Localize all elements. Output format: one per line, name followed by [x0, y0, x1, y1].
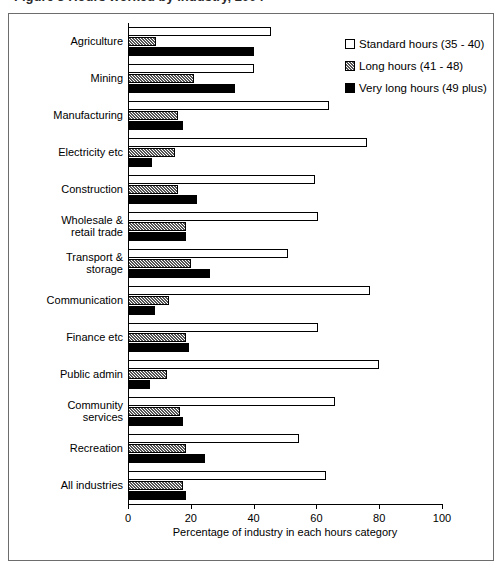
bar-lng: [128, 37, 156, 46]
bar-vlng: [128, 158, 152, 167]
bar-vlng: [128, 232, 186, 241]
bar-std: [128, 138, 367, 147]
legend-label: Long hours (41 - 48): [359, 60, 463, 72]
bar-std: [128, 286, 370, 295]
category-label: Electricity etc: [58, 146, 123, 158]
x-axis-tick: [316, 504, 317, 509]
x-axis-line: [128, 504, 442, 505]
category-label: Communication: [47, 294, 123, 306]
bar-group: [128, 245, 442, 282]
bar-std: [128, 360, 379, 369]
bar-vlng: [128, 47, 254, 56]
bar-lng: [128, 111, 178, 120]
legend-label: Standard hours (35 - 40): [359, 38, 484, 50]
category-label: Manufacturing: [53, 109, 123, 121]
legend-item: Standard hours (35 - 40): [345, 33, 491, 55]
clipped-header-strip: Figure 3 Hours worked by industry, 2004: [0, 0, 504, 12]
bar-vlng: [128, 491, 186, 500]
bar-std: [128, 249, 288, 258]
bar-lng: [128, 481, 183, 490]
bar-vlng: [128, 269, 210, 278]
legend-item: Very long hours (49 plus): [345, 77, 491, 99]
category-label: All industries: [61, 479, 123, 491]
clipped-caption: Figure 3 Hours worked by industry, 2004: [14, 0, 264, 4]
x-axis-tick-label: 80: [359, 512, 399, 524]
bar-lng: [128, 370, 167, 379]
bar-vlng: [128, 84, 235, 93]
bar-vlng: [128, 306, 155, 315]
x-axis-tick: [442, 504, 443, 509]
x-axis-tick: [191, 504, 192, 509]
x-axis-tick-label: 40: [234, 512, 274, 524]
bar-std: [128, 397, 335, 406]
bar-group: [128, 208, 442, 245]
bar-group: [128, 134, 442, 171]
bar-lng: [128, 74, 194, 83]
bar-lng: [128, 296, 169, 305]
bar-lng: [128, 185, 178, 194]
x-axis-tick: [379, 504, 380, 509]
bar-group: [128, 171, 442, 208]
category-label: Recreation: [70, 442, 123, 454]
bar-group: [128, 282, 442, 319]
bar-vlng: [128, 380, 150, 389]
bar-std: [128, 471, 326, 480]
category-label: Construction: [61, 183, 123, 195]
chart-legend: Standard hours (35 - 40)Long hours (41 -…: [345, 33, 491, 99]
chart-frame: AgricultureMiningManufacturingElectricit…: [8, 13, 494, 561]
category-label: Community services: [67, 399, 123, 423]
category-axis-labels: AgricultureMiningManufacturingElectricit…: [9, 23, 123, 504]
bar-std: [128, 212, 318, 221]
x-axis-tick-label: 60: [296, 512, 336, 524]
bar-std: [128, 175, 315, 184]
bar-std: [128, 323, 318, 332]
x-axis-tick-label: 100: [422, 512, 462, 524]
x-axis-tick: [128, 504, 129, 509]
category-label: Finance etc: [66, 331, 123, 343]
x-axis-tick-label: 20: [171, 512, 211, 524]
bar-lng: [128, 148, 175, 157]
bar-lng: [128, 407, 180, 416]
hatched-square-icon: [345, 61, 355, 71]
bar-group: [128, 97, 442, 134]
bar-lng: [128, 333, 186, 342]
bar-std: [128, 64, 254, 73]
bar-vlng: [128, 195, 197, 204]
category-label: Public admin: [60, 368, 123, 380]
bar-vlng: [128, 121, 183, 130]
category-label: Transport & storage: [66, 251, 123, 275]
bar-std: [128, 27, 271, 36]
category-label: Wholesale & retail trade: [61, 214, 123, 238]
x-axis-tick: [254, 504, 255, 509]
category-label: Agriculture: [70, 35, 123, 47]
bar-vlng: [128, 454, 205, 463]
bar-vlng: [128, 417, 183, 426]
bar-group: [128, 356, 442, 393]
legend-label: Very long hours (49 plus): [359, 82, 487, 94]
bar-group: [128, 393, 442, 430]
bar-vlng: [128, 343, 189, 352]
bar-lng: [128, 222, 186, 231]
legend-item: Long hours (41 - 48): [345, 55, 491, 77]
white-square-icon: [345, 39, 355, 49]
bar-lng: [128, 259, 191, 268]
bar-group: [128, 319, 442, 356]
bar-group: [128, 430, 442, 467]
x-axis-title: Percentage of industry in each hours cat…: [128, 526, 442, 538]
x-axis-tick-label: 0: [108, 512, 148, 524]
chart-screenshot: Figure 3 Hours worked by industry, 2004 …: [0, 0, 504, 569]
black-square-icon: [345, 83, 355, 93]
bar-lng: [128, 444, 186, 453]
bar-group: [128, 467, 442, 504]
category-label: Mining: [91, 72, 123, 84]
bar-std: [128, 434, 299, 443]
bar-std: [128, 101, 329, 110]
